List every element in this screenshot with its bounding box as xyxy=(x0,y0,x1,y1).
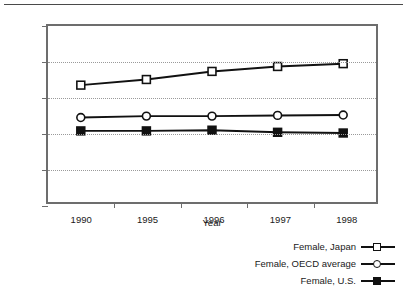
plot-area: 0102030405019901995199619971998 xyxy=(46,24,378,204)
x-tick-mark xyxy=(247,202,248,208)
chart-legend: Female, JapanFemale, OECD averageFemale,… xyxy=(190,238,395,289)
legend-label: Female, Japan xyxy=(293,241,356,252)
legend-label: Female, OECD average xyxy=(255,258,356,269)
data-point-marker xyxy=(142,112,150,120)
y-gridline xyxy=(48,134,376,135)
data-point-marker xyxy=(274,111,282,119)
legend-item: Female, Japan xyxy=(190,238,395,255)
data-point-marker xyxy=(208,126,216,134)
x-tick-mark xyxy=(314,202,315,208)
data-point-marker xyxy=(142,76,150,84)
y-gridline xyxy=(48,98,376,99)
data-point-marker xyxy=(77,114,85,122)
y-tick-mark xyxy=(42,206,48,207)
legend-marker-open-square-icon xyxy=(361,241,395,253)
x-axis-title: Year xyxy=(46,217,378,228)
series-layer xyxy=(48,26,376,202)
data-point-marker xyxy=(339,111,347,119)
x-tick-mark xyxy=(181,202,182,208)
data-point-marker xyxy=(208,67,216,75)
data-point-marker xyxy=(77,81,85,89)
x-tick-mark xyxy=(114,202,115,208)
y-gridline xyxy=(48,170,376,171)
y-tick-mark xyxy=(42,170,48,171)
data-point-marker xyxy=(208,112,216,120)
legend-marker-open-circle-icon xyxy=(361,258,395,270)
data-point-marker xyxy=(339,60,347,68)
data-point-marker xyxy=(339,129,347,137)
legend-item: Female, OECD average xyxy=(190,255,395,272)
y-tick-mark xyxy=(42,98,48,99)
y-tick-mark xyxy=(42,26,48,27)
top-divider-rule xyxy=(4,4,403,5)
data-point-marker xyxy=(274,128,282,136)
y-tick-mark xyxy=(42,134,48,135)
legend-item: Female, U.S. xyxy=(190,272,395,289)
y-tick-mark xyxy=(42,62,48,63)
chart-figure: Share in All Employees (%) 0102030405019… xyxy=(0,0,407,296)
y-gridline xyxy=(48,62,376,63)
legend-label: Female, U.S. xyxy=(301,275,356,286)
legend-marker-filled-square-icon xyxy=(361,275,395,287)
data-point-marker xyxy=(274,63,282,71)
